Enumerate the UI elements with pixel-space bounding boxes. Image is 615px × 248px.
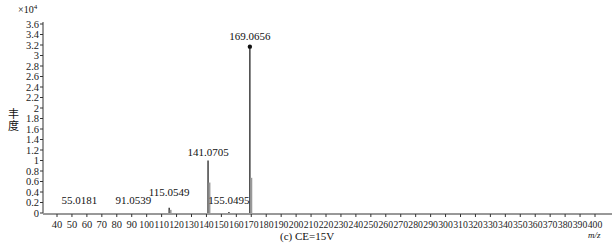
y-tick-label: 2.6 <box>26 71 39 82</box>
x-tick-label: 260 <box>378 219 393 230</box>
x-tick-label: 90 <box>126 219 137 230</box>
x-tick-label: 50 <box>67 219 78 230</box>
y-tick-label: 1.2 <box>26 145 39 156</box>
x-tick-label: 210 <box>304 219 319 230</box>
x-tick-label: 160 <box>229 219 244 230</box>
x-tick-label: 180 <box>259 219 274 230</box>
x-tick-label: 270 <box>393 219 408 230</box>
y-tick-label: 3.6 <box>26 19 39 30</box>
x-tick-label: 40 <box>52 219 63 230</box>
y-tick-label: 1 <box>34 155 39 166</box>
x-tick-label: 370 <box>543 219 558 230</box>
peak-annotation: 115.0549 <box>149 186 190 198</box>
y-tick-label: 0.8 <box>26 166 39 177</box>
peak-annotation: 91.0539 <box>115 194 151 206</box>
x-tick-label: 140 <box>199 219 214 230</box>
y-tick-label: 0 <box>34 208 39 219</box>
x-tick-label: 80 <box>112 219 123 230</box>
y-tick-label: 1.4 <box>26 134 40 145</box>
x-tick-label: 340 <box>498 219 513 230</box>
x-tick-label: 240 <box>349 219 364 230</box>
y-tick-label: 1.8 <box>26 113 39 124</box>
y-tick-label: 2.8 <box>26 61 39 72</box>
y-tick-label: 0.2 <box>26 197 39 208</box>
y-tick-label: 3.2 <box>26 40 39 51</box>
x-tick-label: 120 <box>169 219 184 230</box>
x-tick-label: 110 <box>154 219 169 230</box>
x-tick-label: 190 <box>274 219 289 230</box>
y-tick-label: 3.4 <box>26 29 40 40</box>
x-tick-label: 170 <box>244 219 259 230</box>
x-axis-label: m/z <box>588 230 601 240</box>
x-tick-label: 310 <box>453 219 468 230</box>
mass-spectrum-plot: 00.20.40.60.811.21.41.61.822.22.42.62.83… <box>0 0 615 248</box>
y-tick-label: 2 <box>34 103 39 114</box>
x-tick-label: 320 <box>468 219 483 230</box>
x-tick-label: 200 <box>289 219 304 230</box>
x-tick-label: 230 <box>334 219 349 230</box>
peak-annotation: 169.0656 <box>229 30 271 42</box>
chart-caption: (c) CE=15V <box>280 230 334 242</box>
x-tick-label: 100 <box>139 219 154 230</box>
y-tick-label: 2.2 <box>26 92 39 103</box>
y-multiplier: ×104 <box>18 3 37 15</box>
y-tick-label: 0.4 <box>26 187 40 198</box>
peak-annotation: 155.0495 <box>208 194 250 206</box>
peak-annotation: 141.0705 <box>187 146 229 158</box>
y-tick-label: 2.4 <box>26 82 40 93</box>
y-axis-label: 丰度 <box>4 108 20 132</box>
peak-annotation: 55.0181 <box>62 194 98 206</box>
x-tick-label: 150 <box>214 219 229 230</box>
x-tick-label: 70 <box>97 219 108 230</box>
y-tick-label: 1.6 <box>26 124 39 135</box>
x-tick-label: 350 <box>513 219 528 230</box>
x-tick-label: 250 <box>364 219 379 230</box>
precursor-marker <box>248 44 252 48</box>
x-tick-label: 220 <box>319 219 334 230</box>
y-tick-label: 0.6 <box>26 176 39 187</box>
y-tick-label: 3 <box>34 50 39 61</box>
x-tick-label: 330 <box>483 219 498 230</box>
x-tick-label: 400 <box>588 219 603 230</box>
x-tick-label: 380 <box>558 219 573 230</box>
x-tick-label: 360 <box>528 219 543 230</box>
x-tick-label: 130 <box>184 219 199 230</box>
x-tick-label: 60 <box>82 219 93 230</box>
x-tick-label: 280 <box>408 219 423 230</box>
x-tick-label: 290 <box>423 219 438 230</box>
x-tick-label: 300 <box>438 219 453 230</box>
x-tick-label: 390 <box>573 219 588 230</box>
